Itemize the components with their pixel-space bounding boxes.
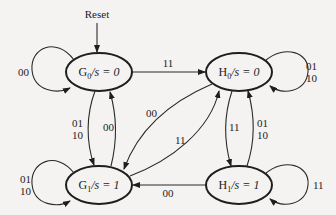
transition-g0-g1: 01 10 (72, 91, 95, 165)
svg-text:G0/s = 0: G0/s = 0 (79, 65, 120, 81)
transition-label: 11 (175, 134, 186, 146)
transition-label: 11 (163, 57, 174, 69)
svg-text:H1/s = 1: H1/s = 1 (219, 178, 260, 194)
state-g0: G0/s = 0 (66, 53, 132, 91)
state-output: /s = 0 (230, 65, 259, 79)
state-name: G (79, 178, 88, 192)
state-h1: H1/s = 1 (206, 166, 272, 204)
transition-label: 10 (306, 72, 318, 84)
transition-label: 10 (257, 129, 269, 141)
transition-label: 01 (20, 173, 31, 185)
transition-label: 10 (72, 129, 84, 141)
transition-label: 00 (146, 107, 158, 119)
transition-label: 10 (20, 185, 32, 197)
transition-g0-h0: 11 (132, 57, 205, 72)
transition-label: 01 (257, 117, 268, 129)
state-name: G (79, 65, 88, 79)
transition-h1-g1: 00 (133, 185, 206, 199)
state-diagram: Reset 00 11 01 10 00 01 10 00 11 11 (0, 0, 336, 215)
transition-h1-h0: 01 10 (247, 91, 269, 166)
state-h0: H0/s = 0 (206, 53, 272, 91)
reset-arrow: Reset (85, 8, 109, 52)
transition-label: 00 (18, 66, 30, 78)
transition-g1-g0: 00 (103, 92, 115, 166)
state-output: /s = 1 (90, 178, 119, 192)
transition-label: 11 (229, 121, 240, 133)
transition-label: 11 (313, 179, 324, 191)
transition-h0-h1: 11 (226, 91, 240, 166)
state-output: /s = 1 (230, 178, 259, 192)
transition-label: 00 (163, 187, 175, 199)
state-name: H (219, 178, 228, 192)
transition-h1-self: 11 (265, 165, 324, 205)
diagram-svg: Reset 00 11 01 10 00 01 10 00 11 11 (0, 0, 336, 215)
state-g1: G1/s = 1 (66, 166, 132, 204)
reset-label: Reset (85, 8, 109, 20)
transition-label: 00 (103, 121, 115, 133)
transition-label: 01 (306, 60, 317, 72)
state-output: /s = 0 (90, 65, 119, 79)
state-name: H (219, 65, 228, 79)
svg-text:H0/s = 0: H0/s = 0 (219, 65, 260, 81)
transition-label: 01 (72, 117, 83, 129)
svg-text:G1/s = 1: G1/s = 1 (79, 178, 120, 194)
